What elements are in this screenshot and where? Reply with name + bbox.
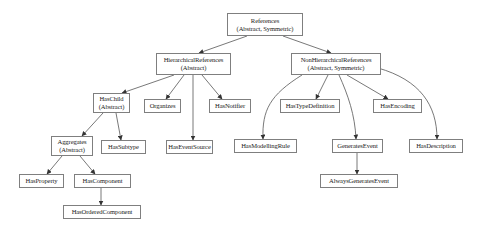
node-sublabel: (Abstract, Symmetric) [308, 64, 365, 72]
node-label: GeneratesEvent [337, 142, 377, 150]
node-label: HasOrderedComponent [72, 208, 133, 216]
node-references: References (Abstract, Symmetric) [227, 13, 303, 36]
node-label: AlwaysGeneratesEvent [329, 177, 389, 185]
edge-haschild-to-aggregates [82, 113, 103, 136]
node-has-type-definition: HasTypeDefinition [280, 99, 340, 113]
node-label: HasComponent [83, 177, 123, 185]
node-has-event-source: HasEventSource [166, 140, 213, 154]
node-has-ordered-component: HasOrderedComponent [63, 205, 141, 219]
node-organizes: Organizes [144, 99, 181, 113]
node-label: HasChild [99, 95, 123, 103]
node-non-hierarchical-references: NonHierarchicalReferences (Abstract, Sym… [291, 53, 381, 75]
node-sublabel: (Abstract) [59, 146, 85, 154]
node-has-property: HasProperty [19, 174, 64, 188]
node-label: HasTypeDefinition [286, 102, 335, 110]
node-sublabel: (Abstract, Symmetric) [237, 25, 294, 33]
node-always-generates-event: AlwaysGeneratesEvent [320, 174, 398, 188]
node-has-encoding: HasEncoding [373, 99, 422, 113]
node-sublabel: (Abstract) [99, 103, 125, 111]
node-label: NonHierarchicalReferences [301, 56, 372, 64]
node-label: HasModellingRule [241, 142, 290, 150]
edge-references-to-hierarchical [199, 36, 247, 53]
node-label: HasProperty [26, 177, 58, 185]
edge-aggregates-to-hascomponent [80, 156, 95, 174]
node-hierarchical-references: HierarchicalReferences (Abstract) [156, 53, 231, 75]
node-sublabel: (Abstract) [181, 64, 207, 72]
node-label: HasSubtype [108, 143, 139, 151]
edge-hierarchical-to-organizes [166, 75, 184, 99]
edge-hierarchical-to-haschild [122, 75, 174, 93]
node-aggregates: Aggregates (Abstract) [51, 136, 93, 156]
node-has-notifier: HasNotifier [209, 99, 251, 113]
edge-hierarchical-to-hasnotifier [202, 75, 222, 99]
node-label: HasNotifier [215, 102, 245, 110]
node-has-component: HasComponent [74, 174, 131, 188]
node-generates-event: GeneratesEvent [332, 139, 383, 153]
node-label: Organizes [150, 102, 176, 110]
node-has-child: HasChild (Abstract) [93, 93, 130, 113]
edge-nonhierarchical-to-hasencoding [347, 75, 388, 99]
node-has-description: HasDescription [409, 139, 463, 153]
edge-references-to-nonhierarchical [283, 36, 331, 53]
node-label: HasDescription [416, 142, 456, 150]
edge-haschild-to-hassubtype [116, 113, 121, 140]
node-label: HierarchicalReferences [164, 56, 224, 64]
reference-hierarchy-diagram: References (Abstract, Symmetric) Hierarc… [0, 0, 482, 229]
edge-nonhierarchical-to-hastypedefinition [316, 75, 328, 99]
node-has-modelling-rule: HasModellingRule [234, 139, 297, 153]
edge-nonhierarchical-to-generatesevent [339, 75, 356, 139]
node-label: HasEventSource [168, 143, 211, 151]
node-has-subtype: HasSubtype [101, 140, 146, 154]
edge-aggregates-to-hasproperty [47, 156, 62, 174]
node-label: References [251, 17, 279, 25]
node-label: Aggregates [57, 138, 86, 146]
node-label: HasEncoding [380, 102, 414, 110]
